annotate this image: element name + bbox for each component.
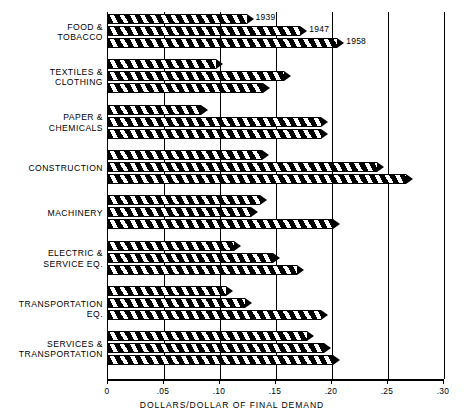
bar-tip-arrow-icon xyxy=(297,265,304,275)
bar-1939[interactable] xyxy=(108,331,307,341)
bar-row xyxy=(108,241,444,251)
x-tick xyxy=(275,379,276,384)
bar-1958[interactable] xyxy=(108,129,321,139)
bar-tip-arrow-icon xyxy=(247,14,254,24)
bar-row: 1947 xyxy=(108,26,444,36)
bar-tip-arrow-icon xyxy=(216,59,223,69)
bar-tip-arrow-icon xyxy=(300,26,307,36)
x-tick-label: .25 xyxy=(381,386,394,396)
bar-group xyxy=(108,286,444,324)
bar-tip-arrow-icon xyxy=(337,38,344,48)
bar-1958[interactable] xyxy=(108,310,321,320)
bar-1939[interactable] xyxy=(108,195,260,205)
category-label-line: MACHINERY xyxy=(1,208,103,219)
bar-1958[interactable] xyxy=(108,38,337,48)
bar-tip-arrow-icon xyxy=(234,241,241,251)
bar-1947[interactable] xyxy=(108,162,377,172)
plot-area: 193919471958 xyxy=(107,12,444,379)
x-axis: 0.05.10.15.20.25.30 xyxy=(107,379,443,381)
bar-1947[interactable] xyxy=(108,71,284,81)
bar-tip-arrow-icon xyxy=(273,253,280,263)
bar-row xyxy=(108,207,444,217)
bar-1958[interactable] xyxy=(108,355,333,365)
bar-row: 1939 xyxy=(108,14,444,24)
x-tick-label: .10 xyxy=(213,386,226,396)
bar-1947[interactable] xyxy=(108,298,245,308)
bar-tip-arrow-icon xyxy=(284,71,291,81)
bar-1947[interactable] xyxy=(108,343,324,353)
bar-tip-arrow-icon xyxy=(321,310,328,320)
bar-row xyxy=(108,150,444,160)
bar-row xyxy=(108,59,444,69)
bar-1939[interactable] xyxy=(108,150,262,160)
bar-row xyxy=(108,253,444,263)
bar-1958[interactable] xyxy=(108,219,333,229)
category-label: ELECTRIC &SERVICE EQ. xyxy=(1,248,103,269)
bar-1947[interactable] xyxy=(108,26,300,36)
bar-tip-arrow-icon xyxy=(321,129,328,139)
bar-1939[interactable] xyxy=(108,241,234,251)
bar-1947[interactable] xyxy=(108,207,251,217)
bar-tip-arrow-icon xyxy=(260,195,267,205)
x-tick-label: .05 xyxy=(157,386,170,396)
bar-tip-arrow-icon xyxy=(263,83,270,93)
category-label-line: CHEMICALS xyxy=(1,123,103,134)
bar-1939[interactable] xyxy=(108,59,216,69)
bar-tip-arrow-icon xyxy=(324,343,331,353)
bar-row xyxy=(108,355,444,365)
bar-group xyxy=(108,105,444,143)
bar-tip-arrow-icon xyxy=(226,286,233,296)
x-tick-label: .30 xyxy=(437,386,450,396)
category-label-line: CONSTRUCTION xyxy=(1,163,103,174)
series-label-1939: 1939 xyxy=(256,12,276,22)
category-axis: FOOD &TOBACCOTEXTILES &CLOTHINGPAPER &CH… xyxy=(0,12,103,379)
category-label-line: TOBACCO xyxy=(1,32,103,43)
category-label-line: TRANSPORTATION xyxy=(1,349,103,360)
bar-1939[interactable] xyxy=(108,105,201,115)
bar-1958[interactable] xyxy=(108,83,263,93)
category-label: PAPER &CHEMICALS xyxy=(1,112,103,133)
x-tick-label: .15 xyxy=(269,386,282,396)
bar-tip-arrow-icon xyxy=(321,117,328,127)
bar-tip-arrow-icon xyxy=(251,207,258,217)
bar-1947[interactable] xyxy=(108,253,273,263)
bar-1958[interactable] xyxy=(108,174,406,184)
bar-row xyxy=(108,105,444,115)
x-tick xyxy=(443,379,444,384)
bar-group xyxy=(108,59,444,97)
bar-row xyxy=(108,310,444,320)
bar-row xyxy=(108,174,444,184)
series-label-1947: 1947 xyxy=(309,24,329,34)
bar-row xyxy=(108,265,444,275)
category-label-line: TRANSPORTATION EQ. xyxy=(1,299,103,320)
bar-tip-arrow-icon xyxy=(307,331,314,341)
bar-group xyxy=(108,241,444,279)
bar-row xyxy=(108,129,444,139)
bar-row xyxy=(108,219,444,229)
bar-row xyxy=(108,195,444,205)
category-label: TRANSPORTATION EQ. xyxy=(1,299,103,320)
category-label-line: CLOTHING xyxy=(1,77,103,88)
bar-tip-arrow-icon xyxy=(333,355,340,365)
bar-group: 193919471958 xyxy=(108,14,444,52)
bar-row xyxy=(108,117,444,127)
x-tick xyxy=(107,379,108,384)
bar-tip-arrow-icon xyxy=(406,174,413,184)
category-label: CONSTRUCTION xyxy=(1,163,103,174)
x-tick xyxy=(163,379,164,384)
bar-tip-arrow-icon xyxy=(377,162,384,172)
category-label: SERVICES &TRANSPORTATION xyxy=(1,339,103,360)
bar-1947[interactable] xyxy=(108,117,321,127)
bar-1939[interactable] xyxy=(108,14,247,24)
bar-row: 1958 xyxy=(108,38,444,48)
category-label-line: PAPER & xyxy=(1,112,103,123)
x-tick-label: 0 xyxy=(105,386,110,396)
bar-1939[interactable] xyxy=(108,286,226,296)
x-tick xyxy=(387,379,388,384)
bar-group xyxy=(108,150,444,188)
category-label: MACHINERY xyxy=(1,208,103,219)
x-tick xyxy=(331,379,332,384)
bar-1958[interactable] xyxy=(108,265,297,275)
category-label-line: ELECTRIC & xyxy=(1,248,103,259)
category-label-line: SERVICES & xyxy=(1,339,103,350)
